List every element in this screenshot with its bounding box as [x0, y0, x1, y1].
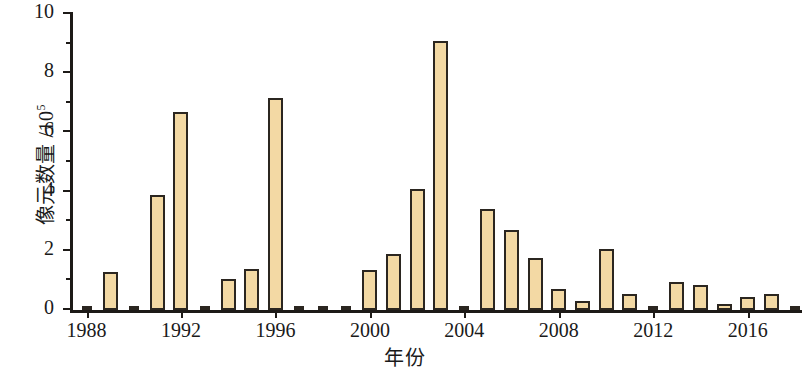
x-axis-tick — [181, 313, 183, 318]
bar — [294, 306, 304, 310]
bar — [504, 230, 519, 310]
x-axis-title: 年份 — [0, 342, 810, 371]
y-axis-tick-label: 6 — [24, 119, 54, 139]
x-axis-ticks: 19881992199620002004200820122016 — [70, 313, 802, 343]
x-axis-tick-label: 2012 — [618, 319, 688, 341]
bar — [318, 306, 328, 310]
x-axis-tick-label: 2016 — [713, 319, 783, 341]
y-axis-title-exponent: 5 — [34, 104, 48, 111]
bar-chart-figure: 像元数量 /105 0246810 1988199219962000200420… — [0, 0, 810, 371]
plot-area: 0246810 — [70, 14, 802, 310]
bar — [82, 306, 92, 310]
bar — [764, 294, 779, 310]
bar — [410, 189, 425, 310]
bar — [129, 306, 139, 310]
bar — [173, 112, 188, 310]
x-axis-tick-label: 2000 — [335, 319, 405, 341]
x-axis-tick-label: 1996 — [240, 319, 310, 341]
bar-series — [70, 14, 802, 310]
bar — [717, 304, 732, 310]
bar — [221, 279, 236, 310]
bar — [459, 306, 469, 310]
x-axis-tick — [559, 313, 561, 318]
bar — [386, 254, 401, 310]
bar — [575, 301, 590, 310]
bar — [648, 306, 658, 310]
bar — [244, 269, 259, 310]
bar — [599, 249, 614, 310]
x-axis-tick — [748, 313, 750, 318]
bar — [693, 285, 708, 310]
x-axis-tick-label: 2004 — [429, 319, 499, 341]
bar — [740, 297, 755, 310]
bar — [103, 272, 118, 310]
bar — [268, 98, 283, 310]
bar — [200, 306, 210, 310]
bar — [362, 270, 377, 310]
y-axis-tick-label: 10 — [24, 1, 54, 21]
y-axis-tick-label: 2 — [24, 238, 54, 258]
bar — [341, 306, 351, 310]
x-axis-tick — [87, 313, 89, 318]
x-axis-tick — [464, 313, 466, 318]
bar — [433, 41, 448, 310]
x-axis-tick — [653, 313, 655, 318]
x-axis-tick — [370, 313, 372, 318]
x-axis-tick-label: 1992 — [146, 319, 216, 341]
y-axis-tick-label: 0 — [24, 297, 54, 317]
bar — [790, 306, 800, 310]
bar — [622, 294, 637, 310]
bar — [480, 209, 495, 310]
x-axis-tick — [275, 313, 277, 318]
bar — [551, 289, 566, 310]
x-axis-tick-label: 2008 — [524, 319, 594, 341]
y-axis-tick-label: 8 — [24, 60, 54, 80]
x-axis-tick-label: 1988 — [52, 319, 122, 341]
bar — [150, 195, 165, 310]
bar — [669, 282, 684, 310]
bar — [528, 258, 543, 310]
y-axis-tick-label: 4 — [24, 179, 54, 199]
